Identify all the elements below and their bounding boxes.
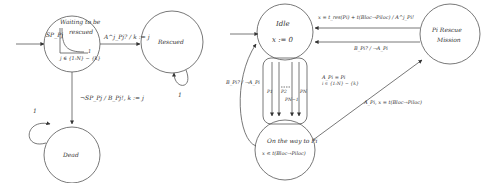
rescue-line1: Pi Rescue xyxy=(432,27,462,33)
label-waiting-dead: ¬SP_Pj / B_Pj!, k := j xyxy=(80,95,144,101)
label-ontheway-idle: B_Pi? / ¬A_Pi xyxy=(226,80,260,85)
label-branch-set: i ∈ {1:N} − {k} xyxy=(322,82,359,87)
rescued-loop-label: 1 xyxy=(178,92,182,98)
waiting-inner-value: 1 xyxy=(88,49,91,54)
label-rescue-idle-top: x = t_res(Pi) + t(Bloc→Piloc) / A^j_Pi! xyxy=(318,15,414,20)
label-waiting-rescued: A^j_Pj? / k := j xyxy=(104,34,150,40)
rescued-label: Rescued xyxy=(158,39,184,45)
rescue-line2: Mission xyxy=(437,37,461,43)
dead-loop-label: 1 xyxy=(33,108,37,114)
dead-self-loop xyxy=(29,123,50,144)
label-ontheway-rescue: A_Pi, x = t(Bloc→Piloc) xyxy=(364,100,422,105)
label-branch-guard: A_Pi = Pi xyxy=(322,75,345,80)
dead-label: Dead xyxy=(63,152,79,158)
branch-p1: P1 xyxy=(267,90,273,95)
idle-invariant: x := 0 xyxy=(272,37,293,44)
ontheway-label: On the way to Pi xyxy=(267,138,317,144)
waiting-set-label: j ∈ {1:N} − {k} xyxy=(60,56,101,61)
branch-pn: PN xyxy=(300,90,307,95)
waiting-sp-label: SP_Pj xyxy=(46,32,63,38)
branch-p2: P2 xyxy=(281,90,287,95)
state-rescue-mission xyxy=(420,4,480,64)
branch-pn-1: PN−1 xyxy=(285,98,299,103)
waiting-line1: Waiting to be xyxy=(60,19,100,25)
ontheway-invariant: x ≤ t(Bloc→Piloc) xyxy=(262,151,306,156)
rescued-self-loop xyxy=(174,70,188,85)
waiting-line2: rescued xyxy=(69,29,93,35)
idle-label: Idle xyxy=(276,21,290,28)
arrow-ontheway-idle xyxy=(240,44,256,146)
label-rescue-idle-bottom: B_Pi? / ¬A_Pi xyxy=(354,46,388,51)
state-idle xyxy=(257,4,313,60)
